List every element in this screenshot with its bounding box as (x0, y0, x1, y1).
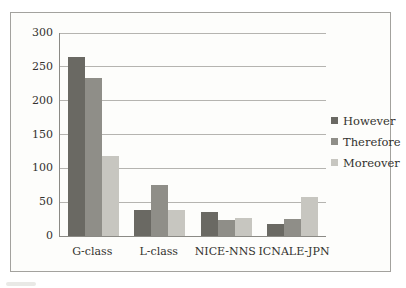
plot-area (59, 33, 326, 237)
x-category-label: G-class (59, 245, 126, 259)
bar-moreover-icnale-jpn (301, 197, 318, 236)
legend: HoweverThereforeMoreover (331, 110, 401, 173)
partial-caption-artifact (6, 282, 36, 286)
y-tick-label: 300 (13, 26, 53, 40)
bar-therefore-nice-nns (218, 220, 235, 236)
y-tick-label: 0 (13, 229, 53, 243)
x-category-label: L-class (126, 245, 193, 259)
legend-item-therefore: Therefore (331, 131, 401, 152)
bar-chart-frame: 050100150200250300 G-classL-classNICE-NN… (10, 12, 391, 272)
legend-label: Moreover (343, 156, 400, 170)
y-tick-label: 100 (13, 161, 53, 175)
y-tick-label: 150 (13, 128, 53, 142)
gridline (60, 33, 326, 34)
bar-however-l-class (134, 210, 151, 236)
bar-therefore-icnale-jpn (284, 219, 301, 236)
legend-swatch-icon (331, 117, 338, 124)
x-category-label: NICE-NNS (192, 245, 259, 259)
bar-moreover-g-class (102, 156, 119, 236)
legend-swatch-icon (331, 138, 338, 145)
gridline (60, 66, 326, 67)
legend-label: Therefore (343, 135, 401, 149)
legend-item-however: However (331, 110, 401, 131)
bar-moreover-l-class (168, 210, 185, 236)
legend-item-moreover: Moreover (331, 152, 401, 173)
y-tick-label: 50 (13, 195, 53, 209)
y-tick-label: 250 (13, 60, 53, 74)
x-category-label: ICNALE-JPN (259, 245, 326, 259)
bar-however-nice-nns (201, 212, 218, 236)
bar-therefore-l-class (151, 185, 168, 236)
legend-swatch-icon (331, 159, 338, 166)
legend-label: However (343, 114, 395, 128)
y-tick-label: 200 (13, 94, 53, 108)
bar-however-g-class (68, 57, 85, 236)
page: 050100150200250300 G-classL-classNICE-NN… (0, 0, 406, 288)
bar-however-icnale-jpn (267, 224, 284, 236)
bar-therefore-g-class (85, 78, 102, 236)
bar-moreover-nice-nns (235, 218, 252, 236)
